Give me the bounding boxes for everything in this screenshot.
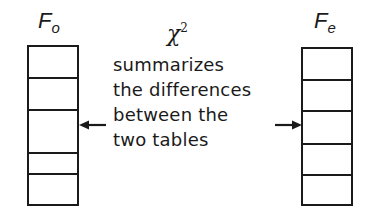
label-main: F: [38, 8, 51, 33]
caption-line: the differences: [113, 77, 251, 102]
label-subscript: o: [51, 19, 59, 36]
chi-square-symbol: χ2: [167, 22, 188, 45]
row-divider: [303, 110, 351, 112]
row-divider: [303, 174, 351, 176]
row-divider: [29, 173, 77, 175]
arrow-left-icon: [79, 119, 107, 131]
chi-symbol: χ: [167, 21, 180, 46]
arrow-right-icon: [274, 119, 302, 131]
row-divider: [29, 77, 77, 79]
row-divider: [29, 152, 77, 154]
row-divider: [29, 109, 77, 111]
observed-frequencies-table: [27, 45, 79, 206]
observed-frequencies-label: Fo: [38, 10, 60, 35]
row-divider: [303, 143, 351, 145]
caption-text: summarizes the differences between the t…: [113, 52, 251, 152]
label-main: F: [314, 8, 327, 33]
chi-superscript: 2: [180, 21, 188, 35]
caption-line: between the: [113, 102, 251, 127]
expected-frequencies-label: Fe: [314, 10, 336, 35]
row-divider: [303, 79, 351, 81]
label-subscript: e: [327, 19, 335, 36]
caption-line: two tables: [113, 127, 251, 152]
expected-frequencies-table: [301, 47, 353, 206]
caption-line: summarizes: [113, 52, 251, 77]
